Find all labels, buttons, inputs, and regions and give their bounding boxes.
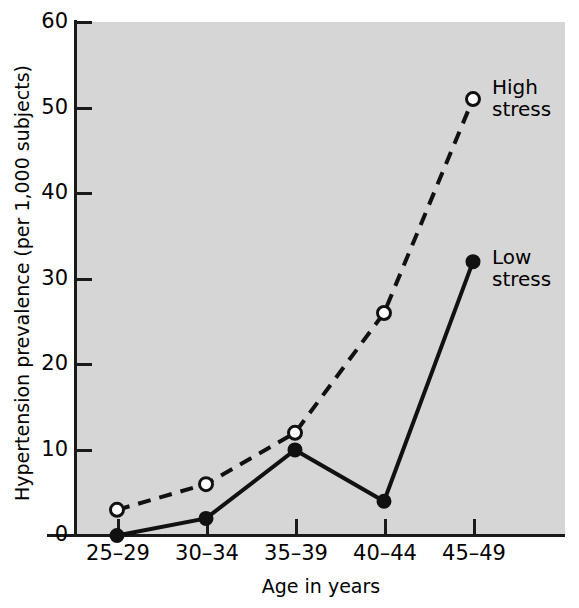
data-point-marker [200, 512, 213, 525]
series-label-low-stress: Low stress [492, 246, 551, 291]
data-point-marker [289, 443, 302, 456]
data-point-marker [467, 255, 480, 268]
data-point-marker [467, 93, 480, 106]
chart-figure: 0 10 20 30 40 50 60 25–29 30–34 35–39 40… [0, 0, 579, 608]
data-point-marker [111, 529, 124, 542]
data-point-marker [200, 478, 213, 491]
series-high-stress [111, 255, 480, 542]
series-label-high-stress: High stress [492, 76, 551, 121]
data-point-marker [378, 306, 391, 319]
data-point-marker [111, 503, 124, 516]
data-point-marker [289, 426, 302, 439]
data-point-marker [378, 495, 391, 508]
